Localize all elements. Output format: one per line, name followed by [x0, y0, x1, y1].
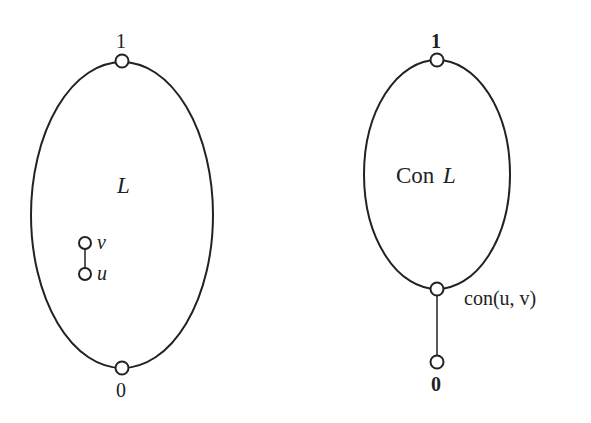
con-l-region-var: L: [443, 163, 456, 188]
lattice-l-top-node: [116, 55, 129, 68]
node-v-label: v: [97, 232, 106, 252]
lattice-l-top-label: 1: [116, 31, 126, 51]
con-l-top-label: 1: [431, 31, 441, 51]
diagram-canvas: 1 0 L v u 1 Con L con(u, v) 0: [0, 0, 591, 423]
node-u-label: u: [97, 263, 107, 283]
lattice-l-bottom-label: 0: [116, 380, 126, 400]
con-l-region-prefix: Con: [396, 163, 434, 188]
diagram-graphics: [0, 0, 591, 423]
con-uv-label: con(u, v): [464, 288, 536, 308]
lattice-l-outline: [31, 62, 213, 368]
lattice-l-bottom-node: [116, 362, 129, 375]
con-l-bottom-label: 0: [431, 374, 441, 394]
con-l-top-node: [431, 54, 444, 67]
con-l-region-label: Con L: [396, 164, 456, 187]
con-uv-node: [431, 283, 444, 296]
lattice-l-region-label: L: [117, 174, 130, 197]
con-l-bottom-node: [431, 356, 444, 369]
node-u: [79, 268, 91, 280]
node-v: [79, 237, 91, 249]
